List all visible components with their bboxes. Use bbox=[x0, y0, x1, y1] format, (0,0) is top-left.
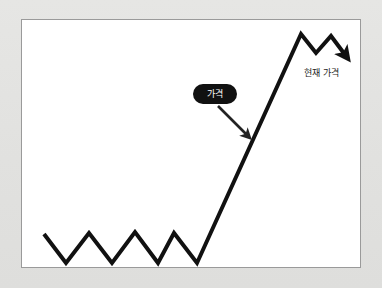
screenshot-stage: 가격 현재 가격 bbox=[0, 0, 382, 288]
price-callout-arrow bbox=[218, 106, 248, 136]
price-callout-pill: 가격 bbox=[193, 84, 237, 104]
price-line-path bbox=[44, 34, 346, 263]
price-trend-chart bbox=[22, 20, 361, 268]
current-price-label: 현재 가격 bbox=[304, 69, 339, 79]
chart-panel: 가격 현재 가격 bbox=[21, 19, 361, 268]
price-callout-label: 가격 bbox=[207, 90, 223, 99]
